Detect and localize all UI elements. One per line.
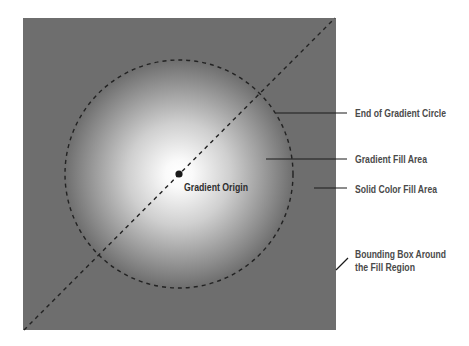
label-bounding-box-line1: Bounding Box Around [355, 248, 446, 260]
label-bounding-box-line2: the Fill Region [355, 261, 415, 273]
gradient-origin-label: Gradient Origin [184, 181, 248, 193]
radial-gradient-diagram: Gradient Origin End of Gradient Circle G… [0, 0, 469, 346]
label-solid-color-fill-area: Solid Color Fill Area [355, 183, 438, 195]
label-gradient-fill-area: Gradient Fill Area [355, 153, 428, 165]
gradient-origin-dot [175, 170, 182, 177]
label-end-of-gradient-circle: End of Gradient Circle [355, 107, 446, 119]
leader-bounding-box [336, 258, 348, 270]
